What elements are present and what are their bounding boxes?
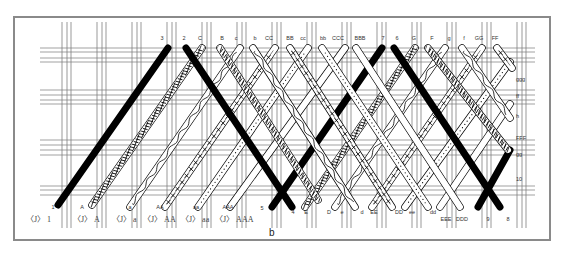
bottom-label: d (360, 209, 363, 215)
bobbin-lace-diagram: 32CBcbCCBBccbbCCCBBB76GFgfGGFF1AaAAaaAAA… (0, 0, 564, 264)
top-label: B (220, 35, 224, 41)
bottom-label: dd (430, 209, 436, 215)
bottom-label: E (304, 209, 308, 215)
strip-E-G (304, 48, 416, 207)
bottom-label: DDD (456, 216, 468, 222)
bobbin-legend: 〈J〉 1 (26, 215, 51, 224)
bobbin-legend: 〈J〉 aa (181, 215, 210, 224)
bottom-label: 8 (506, 216, 509, 222)
top-label: GG (475, 35, 484, 41)
bottom-label: 4 (291, 209, 294, 215)
bobbin-legend: 〈J〉 a (112, 215, 137, 224)
right-label: FFF (516, 135, 527, 141)
top-label: bb (320, 35, 326, 41)
bottom-label: EEE (440, 216, 451, 222)
bottom-label: D (327, 209, 331, 215)
top-label: BBB (354, 35, 365, 41)
top-label: C (198, 35, 202, 41)
right-label: ggg (516, 76, 525, 82)
top-label: 7 (381, 35, 384, 41)
figure-caption: b (269, 227, 275, 238)
bottom-label: ee (409, 209, 415, 215)
thread-strips (58, 48, 512, 207)
right-label: ff (516, 93, 519, 99)
right-label: h (516, 113, 519, 119)
bobbin-legend: 〈J〉 AA (143, 215, 176, 224)
top-label: 2 (182, 35, 185, 41)
bottom-label: e (340, 209, 343, 215)
bottom-label: AA (156, 204, 164, 210)
top-label: g (447, 35, 450, 41)
bottom-label: DD (395, 209, 403, 215)
bobbin-legend: 〈J〉 A (73, 215, 100, 224)
bottom-label: 5 (260, 205, 263, 211)
top-label: FF (492, 35, 499, 41)
bottom-label: A (80, 204, 84, 210)
top-label: F (430, 35, 434, 41)
top-label: CC (265, 35, 273, 41)
bottom-label: 9 (486, 216, 489, 222)
top-label: G (412, 35, 416, 41)
top-label: b (253, 35, 256, 41)
bobbin-legend: 〈J〉 AAA (215, 215, 254, 224)
bottom-label: 1 (51, 204, 54, 210)
right-label: 10 (516, 176, 522, 182)
bottom-label: aa (193, 204, 200, 210)
top-label: f (463, 35, 465, 41)
top-label: cc (300, 35, 306, 41)
top-label: c (235, 35, 238, 41)
top-label: CCC (332, 35, 344, 41)
top-label: BB (286, 35, 294, 41)
bottom-label: AAA (222, 204, 233, 210)
right-label: gg (516, 151, 522, 157)
top-label: 3 (160, 35, 163, 41)
bottom-label: EE (370, 209, 378, 215)
top-label: 6 (395, 35, 398, 41)
